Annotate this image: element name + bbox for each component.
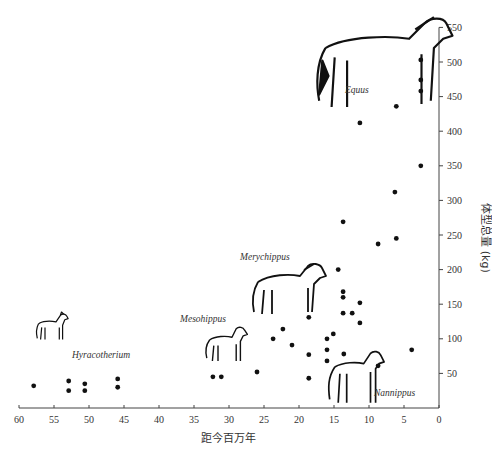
- data-point: [358, 120, 363, 125]
- data-point: [31, 383, 36, 388]
- data-point: [331, 332, 336, 337]
- data-point: [358, 300, 363, 305]
- data-point: [82, 388, 87, 393]
- data-point: [341, 295, 346, 300]
- x-tick-label: 5: [402, 414, 407, 425]
- y-tick-label: 100: [447, 333, 462, 344]
- hyracotherium-label: Hyracotherium: [71, 350, 130, 360]
- data-point: [341, 352, 346, 357]
- data-point: [376, 242, 381, 247]
- x-tick-label: 40: [154, 414, 164, 425]
- merychippus-horse-icon: [253, 264, 326, 314]
- mesohippus-label: Mesohippus: [179, 314, 226, 324]
- hyracotherium-horse-icon: [37, 312, 69, 340]
- data-point: [115, 385, 120, 390]
- data-point: [211, 374, 216, 379]
- data-points: [31, 58, 423, 394]
- x-tick-label: 15: [329, 414, 339, 425]
- data-point: [306, 315, 311, 320]
- horse-body-size-chart: 605550454035302520151050 501001502002503…: [0, 0, 492, 460]
- y-axis-title: 体型总量 (kg): [479, 203, 492, 272]
- data-point: [82, 381, 87, 386]
- y-tick-label: 150: [447, 299, 462, 310]
- data-point: [325, 359, 330, 364]
- data-point: [325, 336, 330, 341]
- data-point: [336, 267, 341, 272]
- x-tick-label: 55: [49, 414, 59, 425]
- x-tick-label: 35: [189, 414, 199, 425]
- data-point: [66, 379, 71, 384]
- data-point: [341, 219, 346, 224]
- data-point: [341, 311, 346, 316]
- data-point: [418, 163, 423, 168]
- data-point: [325, 347, 330, 352]
- y-tick-label: 50: [447, 368, 457, 379]
- y-tick-label: 350: [447, 160, 462, 171]
- data-point: [394, 104, 399, 109]
- data-point: [290, 343, 295, 348]
- data-point: [358, 320, 363, 325]
- x-tick-label: 25: [259, 414, 269, 425]
- data-point: [394, 236, 399, 241]
- y-axis: 50100150200250300350400450500550: [439, 22, 462, 408]
- equus-horse-icon: [317, 17, 452, 107]
- data-point: [115, 377, 120, 382]
- data-point: [255, 370, 260, 375]
- data-point: [393, 190, 398, 195]
- x-tick-label: 60: [14, 414, 24, 425]
- nannippus-label: Nannippus: [373, 388, 415, 398]
- y-tick-label: 200: [447, 264, 462, 275]
- data-point: [350, 311, 355, 316]
- y-tick-label: 250: [447, 230, 462, 241]
- equus-label: Equus: [344, 85, 369, 95]
- data-point: [281, 327, 286, 332]
- x-axis-title: 距今百万年: [201, 431, 256, 445]
- x-tick-label: 50: [84, 414, 94, 425]
- data-point: [219, 374, 224, 379]
- data-point: [306, 376, 311, 381]
- merychippus-label: Merychippus: [239, 252, 290, 262]
- x-tick-label: 45: [119, 414, 129, 425]
- y-tick-label: 500: [447, 57, 462, 68]
- y-tick-label: 400: [447, 126, 462, 137]
- x-tick-label: 10: [364, 414, 374, 425]
- data-point: [341, 289, 346, 294]
- x-tick-label: 0: [437, 414, 442, 425]
- y-tick-label: 450: [447, 91, 462, 102]
- data-point: [271, 336, 276, 341]
- data-point: [306, 352, 311, 357]
- x-axis: 605550454035302520151050: [14, 405, 442, 425]
- x-tick-label: 20: [294, 414, 304, 425]
- data-point: [66, 388, 71, 393]
- data-point: [409, 347, 414, 352]
- x-tick-label: 30: [224, 414, 234, 425]
- mesohippus-horse-icon: [206, 327, 247, 361]
- y-tick-label: 300: [447, 195, 462, 206]
